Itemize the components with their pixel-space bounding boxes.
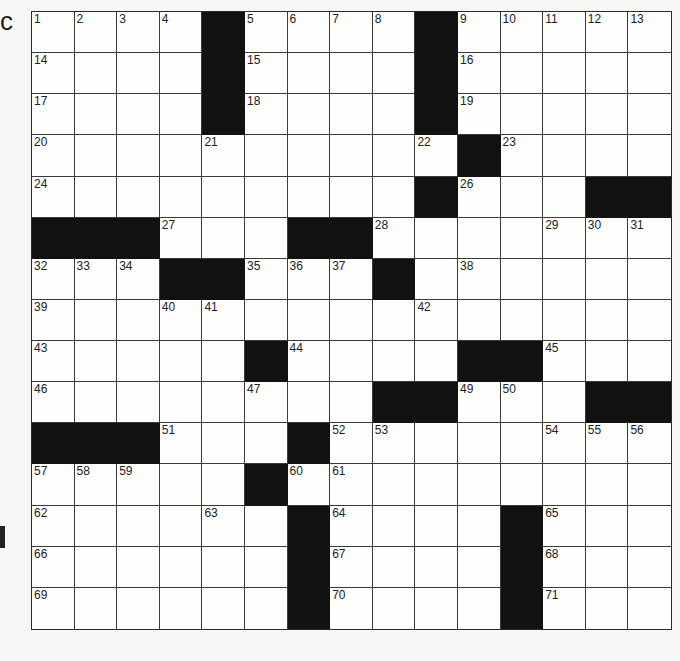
grid-cell[interactable] <box>160 588 203 629</box>
grid-cell[interactable]: 20 <box>32 135 75 176</box>
grid-cell[interactable] <box>586 464 629 505</box>
grid-cell[interactable] <box>160 464 203 505</box>
grid-cell[interactable] <box>586 259 629 300</box>
grid-cell[interactable] <box>543 177 586 218</box>
grid-cell[interactable]: 70 <box>330 588 373 629</box>
grid-cell[interactable] <box>501 177 544 218</box>
grid-cell[interactable] <box>117 341 160 382</box>
grid-cell[interactable] <box>458 423 501 464</box>
grid-cell[interactable]: 22 <box>415 135 458 176</box>
grid-cell[interactable] <box>117 135 160 176</box>
grid-cell[interactable]: 12 <box>586 12 629 53</box>
grid-cell[interactable] <box>330 177 373 218</box>
grid-cell[interactable] <box>586 547 629 588</box>
grid-cell[interactable]: 45 <box>543 341 586 382</box>
grid-cell[interactable]: 28 <box>373 218 416 259</box>
grid-cell[interactable] <box>330 135 373 176</box>
grid-cell[interactable] <box>586 300 629 341</box>
grid-cell[interactable] <box>117 588 160 629</box>
grid-cell[interactable] <box>160 177 203 218</box>
grid-cell[interactable] <box>245 218 288 259</box>
grid-cell[interactable]: 14 <box>32 53 75 94</box>
grid-cell[interactable] <box>288 135 331 176</box>
grid-cell[interactable] <box>543 53 586 94</box>
grid-cell[interactable] <box>330 382 373 423</box>
grid-cell[interactable]: 60 <box>288 464 331 505</box>
grid-cell[interactable] <box>245 300 288 341</box>
grid-cell[interactable] <box>117 94 160 135</box>
grid-cell[interactable] <box>543 259 586 300</box>
grid-cell[interactable] <box>202 341 245 382</box>
grid-cell[interactable] <box>501 300 544 341</box>
grid-cell[interactable]: 9 <box>458 12 501 53</box>
grid-cell[interactable]: 52 <box>330 423 373 464</box>
grid-cell[interactable]: 50 <box>501 382 544 423</box>
grid-cell[interactable]: 3 <box>117 12 160 53</box>
grid-cell[interactable] <box>330 300 373 341</box>
grid-cell[interactable] <box>586 53 629 94</box>
grid-cell[interactable]: 31 <box>628 218 671 259</box>
grid-cell[interactable] <box>586 135 629 176</box>
grid-cell[interactable] <box>202 382 245 423</box>
grid-cell[interactable]: 10 <box>501 12 544 53</box>
grid-cell[interactable] <box>501 94 544 135</box>
grid-cell[interactable] <box>628 53 671 94</box>
grid-cell[interactable]: 34 <box>117 259 160 300</box>
grid-cell[interactable]: 68 <box>543 547 586 588</box>
grid-cell[interactable] <box>415 423 458 464</box>
grid-cell[interactable]: 36 <box>288 259 331 300</box>
grid-cell[interactable]: 21 <box>202 135 245 176</box>
grid-cell[interactable]: 15 <box>245 53 288 94</box>
grid-cell[interactable]: 67 <box>330 547 373 588</box>
grid-cell[interactable] <box>501 464 544 505</box>
grid-cell[interactable]: 8 <box>373 12 416 53</box>
grid-cell[interactable] <box>75 94 118 135</box>
grid-cell[interactable]: 30 <box>586 218 629 259</box>
grid-cell[interactable] <box>373 177 416 218</box>
grid-cell[interactable]: 39 <box>32 300 75 341</box>
grid-cell[interactable]: 55 <box>586 423 629 464</box>
grid-cell[interactable] <box>543 94 586 135</box>
grid-cell[interactable] <box>160 135 203 176</box>
grid-cell[interactable] <box>628 341 671 382</box>
grid-cell[interactable] <box>160 53 203 94</box>
grid-cell[interactable]: 65 <box>543 506 586 547</box>
grid-cell[interactable] <box>75 506 118 547</box>
grid-cell[interactable] <box>628 135 671 176</box>
grid-cell[interactable]: 35 <box>245 259 288 300</box>
grid-cell[interactable] <box>586 588 629 629</box>
grid-cell[interactable] <box>501 218 544 259</box>
grid-cell[interactable] <box>501 423 544 464</box>
grid-cell[interactable] <box>288 300 331 341</box>
grid-cell[interactable]: 64 <box>330 506 373 547</box>
grid-cell[interactable] <box>373 300 416 341</box>
grid-cell[interactable]: 33 <box>75 259 118 300</box>
grid-cell[interactable] <box>373 588 416 629</box>
grid-cell[interactable] <box>202 464 245 505</box>
grid-cell[interactable] <box>245 588 288 629</box>
grid-cell[interactable]: 4 <box>160 12 203 53</box>
grid-cell[interactable]: 11 <box>543 12 586 53</box>
grid-cell[interactable] <box>160 382 203 423</box>
grid-cell[interactable] <box>415 506 458 547</box>
grid-cell[interactable]: 5 <box>245 12 288 53</box>
grid-cell[interactable]: 61 <box>330 464 373 505</box>
grid-cell[interactable] <box>543 300 586 341</box>
grid-cell[interactable] <box>330 53 373 94</box>
grid-cell[interactable]: 16 <box>458 53 501 94</box>
grid-cell[interactable] <box>415 547 458 588</box>
grid-cell[interactable] <box>628 300 671 341</box>
grid-cell[interactable] <box>245 177 288 218</box>
grid-cell[interactable] <box>117 300 160 341</box>
grid-cell[interactable] <box>373 547 416 588</box>
grid-cell[interactable] <box>245 506 288 547</box>
grid-cell[interactable] <box>75 588 118 629</box>
grid-cell[interactable]: 53 <box>373 423 416 464</box>
grid-cell[interactable]: 2 <box>75 12 118 53</box>
grid-cell[interactable] <box>628 547 671 588</box>
grid-cell[interactable] <box>543 135 586 176</box>
grid-cell[interactable]: 32 <box>32 259 75 300</box>
grid-cell[interactable]: 29 <box>543 218 586 259</box>
grid-cell[interactable] <box>202 423 245 464</box>
grid-cell[interactable] <box>117 547 160 588</box>
